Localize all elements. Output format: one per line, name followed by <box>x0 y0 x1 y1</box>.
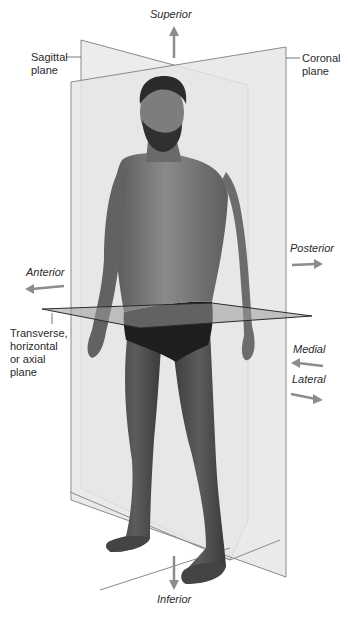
lateral-arrow <box>291 394 323 404</box>
coronal-plane-label: Coronal plane <box>302 52 341 78</box>
anterior-arrow <box>25 284 64 294</box>
transverse-plane-label: Transverse, horizontal or axial plane <box>10 327 68 379</box>
lateral-label: Lateral <box>292 373 326 386</box>
torso <box>114 153 228 312</box>
inferior-label: Inferior <box>157 593 191 606</box>
posterior-label: Posterior <box>290 242 334 255</box>
anatomical-planes-diagram <box>0 0 348 620</box>
anterior-label: Anterior <box>26 266 65 279</box>
sagittal-plane-label: Sagittal plane <box>31 51 68 77</box>
medial-arrow <box>291 358 323 368</box>
medial-label: Medial <box>293 343 325 356</box>
inferior-arrow <box>169 556 179 590</box>
left-foot <box>106 536 150 552</box>
superior-label: Superior <box>150 8 192 21</box>
posterior-arrow <box>292 259 323 269</box>
right-foot <box>181 563 226 584</box>
superior-arrow <box>169 26 179 58</box>
